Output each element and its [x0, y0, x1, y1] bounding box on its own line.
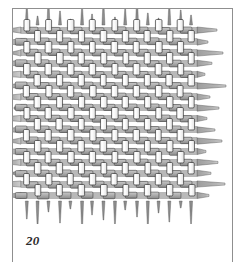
woven-textile-illustration: [13, 9, 232, 224]
frame-right-rule: [232, 8, 233, 262]
figure-page: 20: [0, 0, 246, 262]
weave-diagram-svg: [13, 9, 232, 224]
figure-number-label: 20: [26, 234, 40, 247]
